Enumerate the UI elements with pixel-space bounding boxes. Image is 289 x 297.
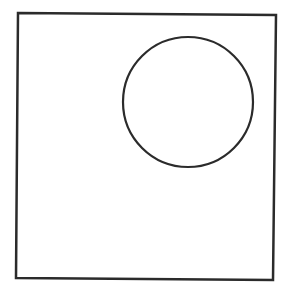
- diagram-canvas: [0, 0, 289, 297]
- background: [0, 0, 289, 297]
